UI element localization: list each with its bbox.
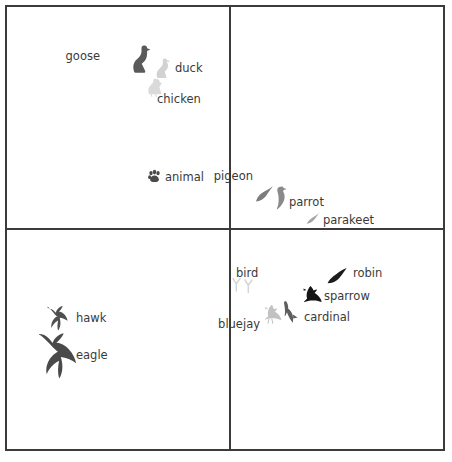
bird-tracks-icon — [232, 278, 254, 295]
marker-label-sparrow: sparrow — [324, 291, 370, 303]
sparrow-icon — [303, 285, 323, 303]
cardinal-icon — [284, 301, 298, 323]
marker-label-animal: animal — [165, 172, 204, 184]
marker-label-eagle: eagle — [76, 350, 108, 362]
marker-label-chicken: chicken — [157, 94, 201, 106]
bottom-right-panel — [231, 230, 445, 449]
eagle-icon — [37, 332, 79, 378]
marker-label-parrot: parrot — [289, 197, 324, 209]
top-left-panel — [7, 7, 229, 228]
duck-icon — [155, 58, 171, 78]
hawk-icon — [47, 305, 73, 331]
parrot-icon — [275, 186, 287, 210]
parakeet-icon — [305, 212, 320, 224]
marker-label-pigeon: pigeon — [214, 171, 253, 183]
quadrant-grid — [5, 5, 445, 451]
marker-label-hawk: hawk — [76, 313, 106, 325]
robin-icon — [327, 267, 347, 284]
goose-icon — [131, 45, 151, 73]
marker-label-bluejay: bluejay — [218, 319, 260, 331]
marker-label-robin: robin — [353, 268, 382, 280]
marker-label-parakeet: parakeet — [323, 215, 374, 227]
marker-label-goose: goose — [66, 51, 100, 63]
pigeon-icon — [256, 185, 273, 202]
marker-label-cardinal: cardinal — [304, 312, 350, 324]
marker-label-bird: bird — [236, 268, 258, 280]
marker-label-duck: duck — [175, 63, 203, 75]
paw-icon — [148, 170, 161, 183]
bluejay-icon — [263, 304, 283, 324]
